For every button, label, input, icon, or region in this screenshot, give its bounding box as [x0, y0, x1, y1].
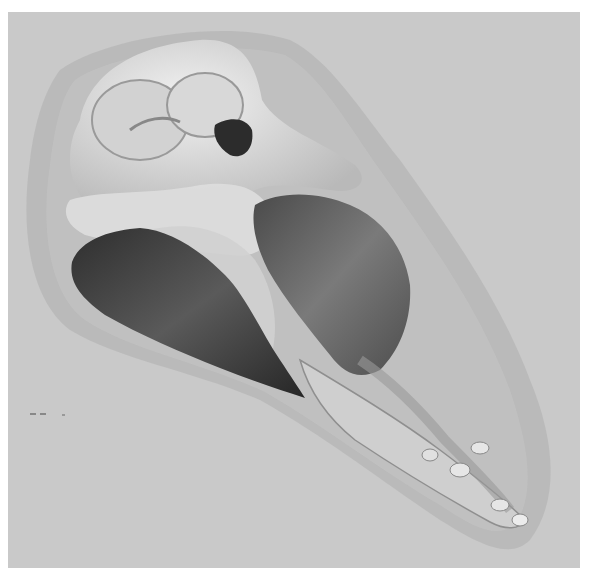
skull-render [0, 0, 590, 576]
